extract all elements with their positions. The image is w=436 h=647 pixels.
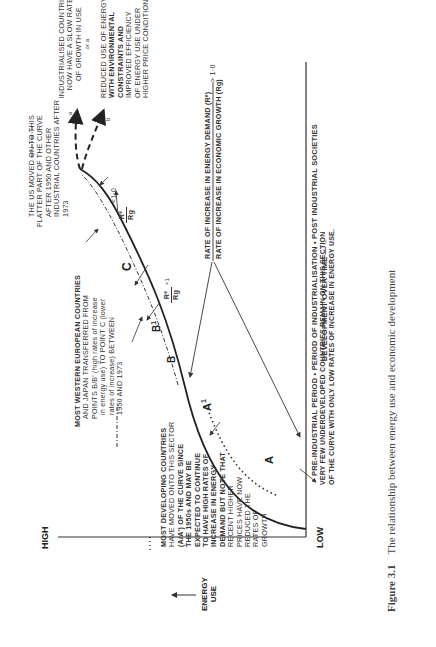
us-line: 1973: [62, 100, 70, 227]
ratio-mid-relation: ≈1: [163, 278, 171, 285]
or-a-label: or a: [83, 0, 91, 99]
point-b-prime-letter: B: [151, 325, 162, 332]
point-b: B: [166, 356, 177, 363]
point-b-prime: B1: [150, 321, 162, 332]
annotation-western: MOST WESTERN EUROPEAN COUNTRIES AND JAPA…: [74, 275, 124, 427]
y-high-label: HIGH: [40, 527, 50, 550]
underdeveloped-line: VERY FEW UNDERDEVELOPED COUNTRIES REMAIN…: [318, 229, 327, 497]
ratio-upper-relation: <1·0: [110, 188, 118, 203]
annotation-underdeveloped: VERY FEW UNDERDEVELOPED COUNTRIES REMAIN…: [318, 229, 336, 497]
annotation-reduced: REDUCED USE OF ENERGY WITH ENVIRONMENTAL…: [100, 0, 150, 98]
point-a-prime-letter: A: [201, 403, 213, 411]
ratio-top-relation: > 1·0: [209, 64, 217, 82]
point-a-prime-mark: 1: [200, 399, 207, 403]
arrow-b-dashed: [82, 112, 103, 169]
underdeveloped-line: OF THE CURVE WITH ONLY LOW RATES OF INCR…: [327, 229, 336, 497]
ratio-upper-denominator: Rg: [127, 207, 135, 223]
ratio-top-numerator: RATE OF INCREASE IN ENERGY DEMAND (Rᵉ): [204, 92, 212, 259]
y-axis-label-line2: USE: [209, 577, 218, 611]
energy-development-diagram: HIGH LOW ENERGY USE PRE-INDUSTRIAL PERIO…: [0, 0, 436, 647]
industrialised-line: OF GROWTH IN USE: [75, 0, 83, 99]
arrow-a-dashed: [76, 112, 80, 169]
annotation-industrialised: INDUSTRIALISED COUNTRIES NOW HAVE A SLOW…: [58, 0, 92, 99]
ratio-top-denominator: RATE OF INCREASE IN ECONOMIC GROWTH (Rg): [215, 79, 223, 259]
point-b-prime-mark: 1: [150, 321, 157, 325]
leader-mid-ratio-b: [147, 302, 160, 320]
leader-ratio-top-2: [214, 262, 300, 437]
y-axis-label: ENERGY USE: [200, 577, 218, 611]
reduced-line: HIGHER PRICE CONDITIONS: [142, 0, 150, 98]
ratio-mid: Rᵉ Rg: [163, 287, 181, 303]
y-axis-label-line1: ENERGY: [200, 577, 209, 611]
leader-western: [132, 317, 142, 342]
developing-line: GROWTH: [261, 422, 269, 547]
leader-ratio-top-1: [190, 262, 212, 377]
point-c: C: [120, 262, 134, 271]
point-a-prime: A1: [200, 399, 213, 411]
annotation-developing: MOST DEVELOPING COUNTRIES HAVE MOVED ONT…: [160, 422, 269, 547]
ratio-upper: Rᵉ Rg: [118, 207, 136, 223]
figure-number: Figure 3.1: [385, 565, 397, 612]
figure-caption-text: The relationship between energy use and …: [385, 270, 397, 555]
leader-upper-ratio-2: [100, 177, 108, 185]
figure-caption: Figure 3.1The relationship between energ…: [385, 270, 397, 612]
ratio-mid-denominator: Rg: [172, 287, 180, 303]
annotation-us: THE US MOVED ON TO THIS FLATTER PART OF …: [28, 100, 70, 227]
western-line: 1950 AND 1973: [116, 275, 124, 427]
leader-us: [86, 229, 98, 242]
arrow-b-label: b: [104, 117, 112, 121]
